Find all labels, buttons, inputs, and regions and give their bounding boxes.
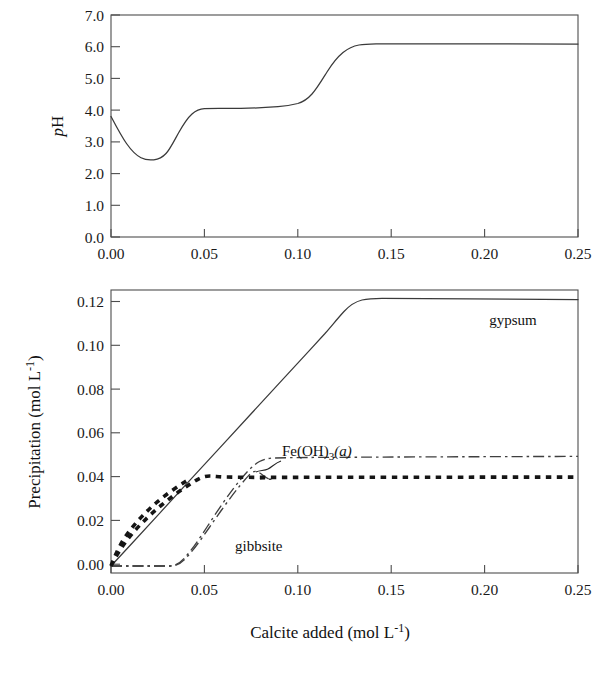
ph-yticklabel-5: 5.0 [85,70,105,87]
precip-yticklabel-1: 0.02 [77,512,104,529]
precip-xticklabel-1: 0.05 [191,581,218,598]
ph-x-ticklabels: 0.00 0.05 0.10 0.15 0.20 0.25 [97,245,591,262]
ph-yticklabel-4: 4.0 [85,102,105,119]
ph-xticklabel-3: 0.15 [378,245,405,262]
precip-title-tail: ) [25,355,44,361]
precip-xticklabel-4: 0.20 [471,581,498,598]
ph-yticklabel-3: 3.0 [85,133,105,150]
series-gypsum-curve [111,298,578,566]
annotation-fe-oh-3: Fe(OH)3(a) [282,443,352,462]
precip-xticklabel-2: 0.10 [284,581,311,598]
calcite-title-tail: ) [404,623,410,642]
series-ph-curve [111,44,578,160]
ph-xticklabel-1: 0.05 [191,245,218,262]
precip-yticklabel-5: 0.10 [77,337,104,354]
precip-y-ticklabels: 0.00 0.02 0.04 0.06 0.08 0.10 0.12 [77,293,104,573]
ph-title-p: p [48,128,67,138]
panel-ph: 0.0 1.0 2.0 3.0 4.0 5.0 6.0 7.0 0.00 [48,7,592,263]
ph-yticklabel-2: 2.0 [85,165,105,182]
calcite-title-base: Calcite added (mol L [250,623,394,642]
ph-yticklabel-0: 0.0 [85,229,105,246]
annotation-gibbsite: gibbsite [235,538,283,554]
ph-yticklabel-6: 6.0 [85,38,105,55]
precip-yticklabel-6: 0.12 [77,293,104,310]
two-panel-chart: 0.0 1.0 2.0 3.0 4.0 5.0 6.0 7.0 0.00 [0,0,607,674]
feoh3-leader-line [256,461,281,472]
calcite-title-exponent: -1 [394,621,404,635]
feoh3-paren: (a) [334,443,352,460]
calcite-axis-title: Calcite added (mol L-1) [250,621,410,642]
ph-y-ticklabels: 0.0 1.0 2.0 3.0 4.0 5.0 6.0 7.0 [85,7,105,246]
precip-axis-title: Precipitation (mol L-1) [23,355,44,509]
precip-xticklabel-5: 0.25 [564,581,591,598]
precip-title-base: Precipitation (mol L [25,371,44,509]
feoh3-base: Fe(OH) [282,443,329,460]
ph-xticklabel-0: 0.00 [97,245,124,262]
ph-axis-title: pH [48,116,67,138]
ph-xticklabel-2: 0.10 [284,245,311,262]
ph-xticklabel-5: 0.25 [564,245,591,262]
ph-x-ticks [111,229,578,237]
precip-yticklabel-0: 0.00 [77,556,104,573]
ph-yticklabel-1: 1.0 [85,197,105,214]
ph-yticklabel-7: 7.0 [85,7,105,24]
precip-plot-frame [111,290,578,573]
figure-container: 0.0 1.0 2.0 3.0 4.0 5.0 6.0 7.0 0.00 [0,0,607,674]
precip-yticklabel-3: 0.06 [77,424,104,441]
svg-text:Precipitation (mol L-1): Precipitation (mol L-1) [23,355,44,509]
series-gibbsite-curve-main [111,456,578,566]
precip-x-ticks [111,565,578,573]
precip-yticklabel-2: 0.04 [77,468,104,485]
precip-xticklabel-0: 0.00 [97,581,124,598]
precip-y-ticks [111,302,120,565]
annotation-gypsum: gypsum [489,312,537,328]
precip-title-exponent: -1 [23,361,37,371]
panel-precipitation: 0.00 0.02 0.04 0.06 0.08 0.10 0.12 0.00 … [23,290,592,642]
ph-plot-frame [111,15,578,237]
precip-yticklabel-4: 0.08 [77,381,104,398]
ph-title-h: H [48,116,67,128]
svg-text:pH: pH [48,116,67,138]
precip-x-ticklabels: 0.00 0.05 0.10 0.15 0.20 0.25 [97,581,591,598]
precip-xticklabel-3: 0.15 [378,581,405,598]
ph-xticklabel-4: 0.20 [471,245,498,262]
